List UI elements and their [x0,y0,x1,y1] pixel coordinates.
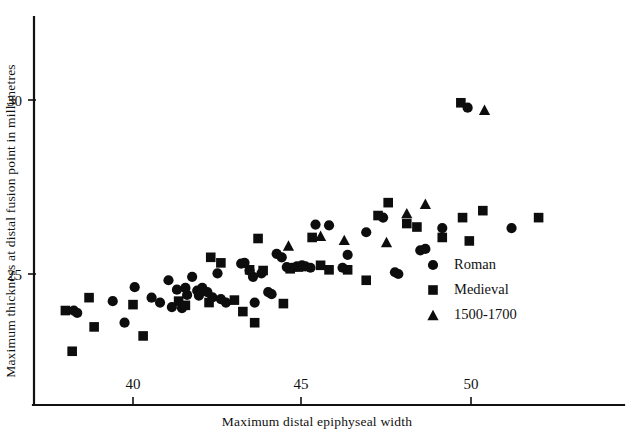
data-point-circle [72,308,82,318]
data-point-square [279,299,289,309]
data-point-circle [343,250,353,260]
legend-label: Roman [454,256,496,273]
data-point-circle [506,223,516,233]
legend-label: 1500-1700 [454,306,517,323]
axes-group [28,17,624,405]
tick-labels-group: 30 25 40 45 50 [7,93,479,392]
data-point-square [294,262,304,272]
data-point-square [258,266,268,276]
data-point-square [456,98,466,108]
data-point-square [343,265,353,275]
data-point-circle [108,296,118,306]
data-point-square [138,331,148,341]
data-point-circle [119,318,129,328]
scatter-plot-figure: 30 25 40 45 50 Maximum distal epiphyseal… [0,0,634,442]
data-point-square [534,213,544,223]
data-point-circle [361,227,371,237]
data-point-square [478,206,488,216]
legend-item-medieval[interactable]: Medieval [422,277,517,302]
data-point-triangle [283,240,294,250]
data-point-triangle [427,309,438,319]
data-point-circle [310,219,320,229]
data-point-square [216,258,226,268]
data-point-square [181,301,191,311]
data-point-circle [163,275,173,285]
x-tick-label-45: 45 [294,376,309,392]
data-point-square [458,213,468,223]
data-point-square [206,253,216,263]
data-point-circle [172,285,182,295]
plot-canvas: 30 25 40 45 50 [0,0,634,442]
square-marker-icon [422,279,444,301]
data-point-circle [277,252,287,262]
data-point-square [204,298,214,308]
legend-item-roman[interactable]: Roman [422,252,517,277]
data-point-circle [182,290,192,300]
data-point-circle [155,297,165,307]
data-point-square [412,222,422,232]
data-point-square [428,285,438,295]
data-point-square [89,322,99,332]
data-point-triangle [479,105,490,115]
data-point-square [402,219,412,229]
data-point-square [61,306,71,316]
data-point-square [250,318,260,328]
data-point-square [285,264,295,274]
data-point-square [324,265,334,275]
triangle-marker-icon [422,304,444,326]
legend-item-1500-1700[interactable]: 1500-1700 [422,302,517,327]
chart-legend: RomanMedieval1500-1700 [422,252,517,327]
data-point-circle [250,297,260,307]
data-point-circle [266,289,276,299]
legend-label: Medieval [454,281,509,298]
data-point-square [361,275,371,285]
data-point-circle [130,282,140,292]
data-point-square [373,211,383,221]
data-point-circle [221,297,231,307]
data-point-circle [305,263,315,273]
data-point-triangle [401,208,412,218]
data-point-triangle [420,199,431,209]
x-tick-label-50: 50 [464,376,479,392]
data-point-square [67,346,77,356]
data-point-triangle [381,237,392,247]
data-point-triangle [339,235,350,245]
data-point-square [437,233,447,243]
y-axis-title: Maximum thickness at distal fusion point… [0,0,22,442]
circle-marker-icon [422,254,444,276]
data-point-square [238,307,248,317]
data-point-square [253,234,263,244]
data-point-square [245,265,255,275]
data-point-square [316,261,326,271]
x-tick-label-40: 40 [126,376,141,392]
data-point-circle [393,269,403,279]
data-point-square [383,198,393,208]
data-point-circle [212,268,222,278]
x-axis-title: Maximum distal epiphyseal width [0,414,634,430]
data-point-circle [437,223,447,233]
data-point-circle [428,259,438,269]
data-point-circle [324,220,334,230]
data-point-square [230,295,240,305]
data-point-square [465,236,475,246]
data-point-circle [187,272,197,282]
data-point-square [128,300,138,310]
data-point-square [84,293,94,303]
